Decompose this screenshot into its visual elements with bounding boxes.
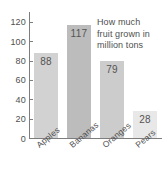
y-axis-tick: 0: [29, 138, 33, 139]
bar: 117: [67, 25, 91, 138]
y-axis-tick-label: 20: [16, 115, 26, 124]
y-axis-tick-label: 120: [10, 18, 26, 27]
y-axis-tick-label: 100: [10, 37, 26, 46]
y-axis-tick-label: 40: [16, 95, 26, 104]
y-axis-tick-label: 0: [21, 134, 26, 143]
chart-annotation-line: How much: [97, 17, 165, 29]
bar-value-label: 88: [34, 57, 58, 67]
y-axis-tick-label: 60: [16, 76, 26, 85]
chart-annotation-line: million tons: [97, 40, 165, 52]
bar-value-label: 117: [67, 29, 91, 39]
y-axis-tick-label: 80: [16, 57, 26, 66]
bar-value-label: 79: [100, 65, 124, 75]
bar-value-label: 28: [133, 115, 157, 125]
chart-annotation-line: fruit grown in: [97, 29, 165, 41]
chart-annotation: How muchfruit grown inmillion tons: [97, 17, 165, 52]
bar-chart: 020406080100120 881177928 ApplesBananasO…: [0, 0, 166, 182]
